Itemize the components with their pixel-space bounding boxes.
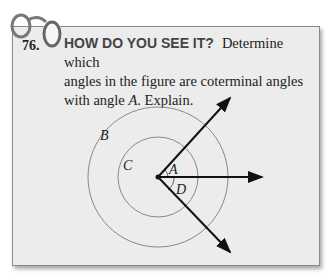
angle-figure	[0, 0, 332, 277]
label-c: C	[123, 158, 132, 174]
label-b: B	[100, 128, 109, 144]
label-d: D	[176, 182, 186, 198]
label-a: A	[169, 162, 178, 178]
